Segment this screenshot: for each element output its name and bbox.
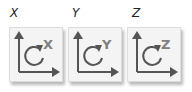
rotate-y-label: Y <box>72 6 79 20</box>
axis-letter-y: Y <box>102 37 111 52</box>
rotate-x-button[interactable]: X <box>9 27 63 82</box>
rotate-around-axis-icon <box>69 28 123 83</box>
rotate-y-button[interactable]: Y <box>68 27 122 82</box>
rotate-x-label: X <box>10 6 18 20</box>
axis-letter-x: X <box>43 37 53 52</box>
rotate-around-axis-icon <box>10 28 64 83</box>
axis-letter-z: Z <box>161 37 170 52</box>
rotate-around-axis-icon <box>128 28 182 83</box>
rotate-z-button[interactable]: Z <box>127 27 181 82</box>
rotate-z-label: Z <box>132 6 140 20</box>
